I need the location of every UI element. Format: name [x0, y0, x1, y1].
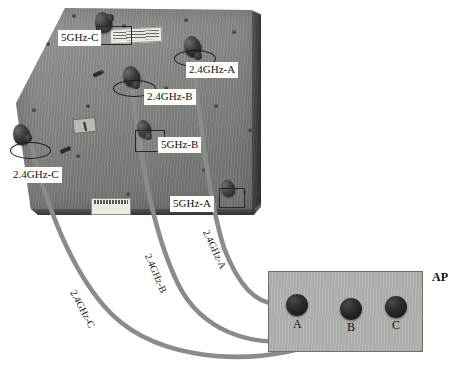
- port-a: [286, 294, 308, 316]
- connector-tip: [24, 134, 32, 142]
- cable-2.4ghz-a: [192, 52, 288, 304]
- connector-box-5ghz-c: [96, 26, 132, 45]
- ap-label: AP: [432, 270, 448, 285]
- port-b: [340, 298, 362, 320]
- port-a-label: A: [293, 317, 302, 332]
- label-2.4ghz-a: 2.4GHz-A: [186, 62, 238, 78]
- label-5ghz-a: 5GHz-A: [170, 196, 214, 212]
- connector-box-5ghz-a: [219, 188, 245, 208]
- port-c: [385, 296, 407, 318]
- label-2.4ghz-b: 2.4GHz-B: [144, 89, 196, 105]
- port-c-label: C: [392, 318, 400, 333]
- annotation-ellipse-2.4ghz-c: [10, 142, 51, 159]
- port-b-label: B: [347, 320, 355, 335]
- label-5ghz-b: 5GHz-B: [158, 137, 201, 153]
- label-5ghz-c: 5GHz-C: [58, 30, 101, 46]
- label-2.4ghz-c: 2.4GHz-C: [10, 167, 62, 183]
- connector-tip: [106, 14, 114, 22]
- diagram-canvas: 5GHz-C 2.4GHz-A 2.4GHz-B 5GHz-B 2.4GHz-C…: [0, 0, 457, 369]
- access-point-box: A B C: [268, 271, 423, 352]
